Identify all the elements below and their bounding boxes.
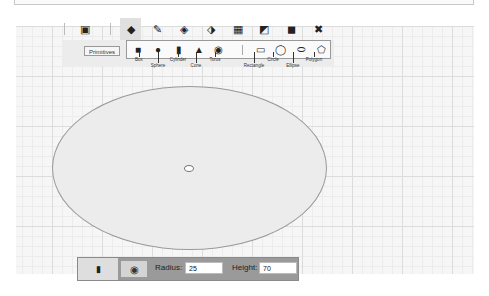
polygon-button[interactable]: ⬠ bbox=[315, 44, 327, 56]
extrude-icon: ◩ bbox=[259, 24, 269, 35]
circle-label: Circle bbox=[267, 57, 279, 62]
sphere-leader bbox=[158, 52, 159, 63]
polygon-icon: ⬠ bbox=[317, 45, 326, 55]
radius-input[interactable] bbox=[185, 262, 223, 274]
torus-label: Torus bbox=[209, 57, 220, 62]
polygon-label: Polygon bbox=[306, 57, 322, 62]
cone-label: Cone bbox=[191, 63, 202, 68]
primitives-separator bbox=[242, 45, 243, 55]
cylinder-icon: ▮ bbox=[176, 45, 182, 55]
ellipse-leader bbox=[293, 52, 294, 63]
cylinder-preview-icon: ◉ bbox=[130, 264, 139, 275]
ellipse-button[interactable]: ⬭ bbox=[295, 44, 307, 56]
circle-button[interactable]: ◯ bbox=[274, 44, 286, 56]
array-icon: ▦ bbox=[233, 24, 243, 35]
box-label: Box bbox=[135, 57, 143, 62]
transform-button[interactable]: ⬗ bbox=[200, 18, 222, 40]
cylinder-label: Cylinder bbox=[170, 57, 187, 62]
extrude-button[interactable]: ◩ bbox=[254, 18, 276, 40]
array-button[interactable]: ▦ bbox=[227, 18, 249, 40]
boolean-icon: ◈ bbox=[180, 24, 188, 35]
box-icon: ■ bbox=[135, 45, 141, 55]
shape-center-handle[interactable] bbox=[184, 165, 194, 172]
toolbar-separator bbox=[64, 23, 65, 35]
torus-button[interactable]: ◉ bbox=[212, 44, 224, 56]
primitives-icon: ◆ bbox=[127, 24, 135, 35]
ellipse-icon: ⬭ bbox=[297, 45, 306, 55]
sphere-label: Sphere bbox=[151, 63, 166, 68]
delete-icon: ✖ bbox=[314, 24, 323, 35]
height-input[interactable] bbox=[259, 262, 297, 274]
radius-label: Radius: bbox=[155, 263, 182, 272]
cone-leader bbox=[196, 52, 197, 63]
circle-icon: ◯ bbox=[275, 45, 286, 55]
main-toolbar: ▣ ◆ ✎ ◈ ⬗ ▦ ◩ ◼ ✖ bbox=[62, 18, 334, 40]
solid-button[interactable]: ◼ bbox=[280, 18, 302, 40]
rectangle-leader bbox=[254, 52, 255, 63]
cylinder-icon: ▮ bbox=[96, 264, 101, 274]
modify-button[interactable]: ✎ bbox=[146, 18, 168, 40]
cone-button[interactable]: ▲ bbox=[193, 44, 205, 56]
ellipse-label: Ellipse bbox=[286, 63, 299, 68]
delete-button[interactable]: ✖ bbox=[307, 18, 329, 40]
shape-type-button[interactable]: ▮ bbox=[78, 258, 118, 280]
properties-panel: ▮ ◉ Radius: Height: bbox=[77, 257, 299, 281]
new-primitive-button[interactable]: ▣ bbox=[74, 18, 96, 40]
height-label: Height: bbox=[232, 263, 257, 272]
cylinder-button[interactable]: ▮ bbox=[173, 44, 185, 56]
primitives-panel: ■ ● ▮ ▲ ◉ ▭ ◯ ⬭ ⬠ bbox=[126, 40, 331, 59]
solid-icon: ◼ bbox=[287, 24, 296, 35]
boolean-button[interactable]: ◈ bbox=[173, 18, 195, 40]
previous-window-edge bbox=[14, 0, 474, 5]
shape-preview-button[interactable]: ◉ bbox=[121, 261, 147, 277]
toolbar-separator bbox=[110, 23, 111, 35]
new-primitive-icon: ▣ bbox=[80, 24, 90, 35]
modify-icon: ✎ bbox=[153, 24, 162, 35]
rectangle-label: Rectangle bbox=[244, 63, 264, 68]
rectangle-button[interactable]: ▭ bbox=[254, 44, 266, 56]
box-button[interactable]: ■ bbox=[132, 44, 144, 56]
primitives-button[interactable]: ◆ bbox=[120, 18, 142, 40]
rectangle-icon: ▭ bbox=[256, 45, 265, 55]
primitives-label: Primitives bbox=[84, 46, 120, 56]
transform-icon: ⬗ bbox=[207, 24, 215, 35]
